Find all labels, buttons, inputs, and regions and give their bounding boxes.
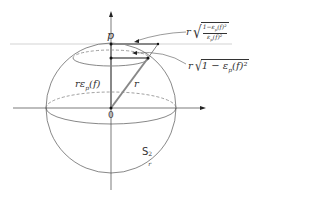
label-height-arg: (f) (89, 78, 101, 89)
label-sphere: S 2 r (142, 147, 154, 157)
top-annotation-arrow (136, 32, 186, 41)
label-sphere-sup: 2 (148, 151, 152, 157)
vertical-axis-arrow-icon (109, 11, 113, 17)
label-top-prefix: r (186, 27, 191, 37)
label-top-fraction: 1−εp(f)² εp(f)² (201, 22, 229, 42)
label-height-main: rε (75, 78, 85, 89)
label-radius: r (134, 79, 139, 89)
label-origin: 0 (108, 111, 114, 120)
top-annotation-arrowhead-icon (134, 39, 139, 43)
connector-segment (148, 44, 158, 58)
label-mid-prefix: r (188, 61, 193, 71)
label-mid-length: r √ 1 − εp(f)² (188, 59, 249, 73)
label-top-length: r √ 1−εp(f)² εp(f)² (186, 22, 229, 42)
point-p (110, 43, 113, 46)
label-height: rεp(f) (75, 79, 101, 91)
sqrt-icon: √ (195, 59, 202, 73)
label-p: p (107, 30, 114, 41)
radius-segment (111, 58, 148, 108)
label-mid-body: 1 − εp(f)² (201, 59, 249, 73)
point-mid-start (110, 57, 113, 60)
point-top-end (157, 43, 159, 45)
horizontal-axis-arrow-icon (200, 106, 206, 110)
point-mid-end (147, 57, 150, 60)
sqrt-icon: √ (193, 24, 202, 41)
label-sphere-sub: r (148, 161, 151, 167)
label-top-denominator: εp(f)² (207, 34, 222, 42)
